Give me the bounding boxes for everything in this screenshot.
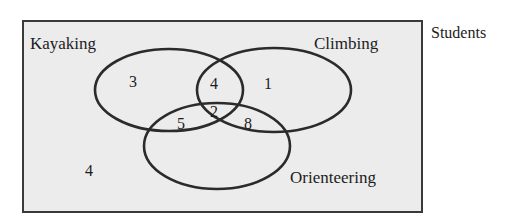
orienteering-set-label: Orienteering: [290, 168, 376, 187]
region-count-climbing-only: 1: [264, 75, 272, 92]
region-count-climbing-orienteering: 8: [244, 115, 252, 132]
venn-diagram-canvas: Kayaking Climbing Orienteering 3 4 1 5 2…: [0, 0, 505, 219]
region-count-kayaking-only: 3: [129, 73, 137, 90]
region-count-kayaking-climbing: 4: [210, 75, 218, 92]
venn-diagram-figure: Kayaking Climbing Orienteering 3 4 1 5 2…: [0, 0, 505, 219]
universe-label: Students: [431, 24, 486, 41]
kayaking-set-label: Kayaking: [30, 34, 97, 53]
climbing-set-label: Climbing: [314, 34, 379, 53]
region-count-all-three: 2: [210, 103, 218, 120]
region-count-kayaking-orienteering: 5: [177, 115, 185, 132]
region-count-outside-sets: 4: [85, 162, 93, 179]
